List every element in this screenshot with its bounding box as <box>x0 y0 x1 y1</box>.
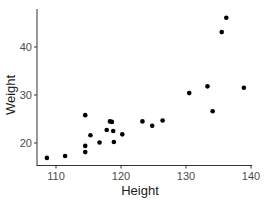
data-point <box>112 140 117 145</box>
x-tick-label: 120 <box>112 170 130 182</box>
data-point <box>205 84 210 89</box>
y-ticks: 203040 <box>20 41 37 149</box>
data-point <box>63 154 68 159</box>
data-point <box>83 144 88 149</box>
data-point <box>83 113 88 118</box>
data-point <box>160 118 165 123</box>
y-axis-label: Weight <box>3 75 18 116</box>
data-point <box>210 109 215 114</box>
data-point <box>83 150 88 155</box>
data-point <box>111 129 116 134</box>
data-point <box>104 128 109 133</box>
y-tick-label: 30 <box>20 89 32 101</box>
x-tick-label: 130 <box>177 170 195 182</box>
data-point <box>219 30 224 35</box>
data-point <box>45 156 50 161</box>
x-axis-label: Height <box>121 183 159 198</box>
data-point <box>97 140 102 145</box>
data-point <box>242 86 247 91</box>
x-tick-label: 110 <box>47 170 65 182</box>
data-point <box>140 119 145 124</box>
data-points <box>45 15 247 160</box>
data-point <box>224 15 229 20</box>
x-ticks: 110120130140 <box>47 166 260 183</box>
x-tick-label: 140 <box>242 170 260 182</box>
data-point <box>110 120 115 125</box>
y-tick-label: 40 <box>20 41 32 53</box>
data-point <box>88 133 93 138</box>
data-point <box>150 123 155 128</box>
data-point <box>120 132 125 137</box>
data-point <box>187 91 192 96</box>
scatter-chart: 203040 110120130140 Height Weight <box>0 0 264 201</box>
y-tick-label: 20 <box>20 137 32 149</box>
